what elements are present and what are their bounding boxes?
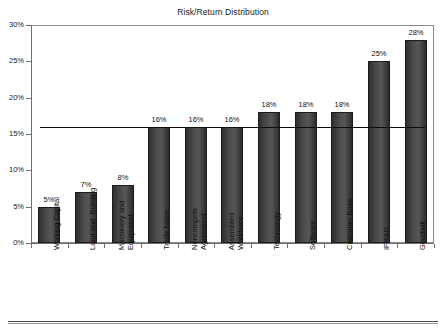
bar-value-label: 16% (214, 115, 250, 124)
y-axis-tick-label-wrap: 10% (0, 165, 24, 175)
x-axis-tick (31, 244, 32, 248)
x-axis-tick (287, 244, 288, 248)
y-axis-tick-label: 15% (0, 129, 24, 139)
x-axis-tick (434, 244, 435, 248)
bar-value-label: 16% (178, 115, 214, 124)
y-axis-tick (26, 207, 32, 208)
x-axis-category-label: Land and Building (89, 188, 98, 250)
bar-value-label: 18% (251, 100, 287, 109)
y-axis-tick-label: 10% (0, 165, 24, 175)
y-axis-tick-label: 0% (0, 238, 24, 248)
y-axis-tick (26, 61, 32, 62)
x-axis-category-label: IPR&D (383, 227, 392, 250)
x-axis-category-label: Goodwill (419, 221, 428, 250)
y-axis-tick-label-wrap: 30% (0, 20, 24, 30)
bar-value-label: 18% (324, 100, 360, 109)
y-axis-tick-label-wrap: 20% (0, 93, 24, 103)
y-axis-tick-label-wrap: 25% (0, 56, 24, 66)
x-axis-tick (214, 244, 215, 248)
x-axis-category-label: Trade Name (163, 209, 172, 250)
x-axis-category-label: Assembled Workforce (228, 213, 245, 250)
x-axis-category-label: Noncompete Agreement (191, 207, 208, 250)
x-axis-category-label: Technology (273, 212, 282, 250)
y-axis-tick-label-wrap: 5% (0, 202, 24, 212)
bar-value-label: 16% (141, 115, 177, 124)
x-axis-tick (68, 244, 69, 248)
x-axis-tick (251, 244, 252, 248)
x-axis-category-label: Working Capital (53, 197, 62, 250)
x-axis-tick (397, 244, 398, 248)
y-axis-tick-label-wrap: 15% (0, 129, 24, 139)
bar-value-label: 28% (398, 28, 434, 37)
bar-value-label: 7% (68, 180, 104, 189)
bar-value-label: 8% (105, 173, 141, 182)
x-axis-tick (141, 244, 142, 248)
x-axis-category-label: Machinery and Equipment (118, 201, 135, 250)
footer-divider-shadow (8, 323, 438, 324)
bar-value-label: 25% (361, 49, 397, 58)
reference-line (40, 127, 425, 128)
x-axis-category-label: Software (309, 220, 318, 250)
chart-page: Risk/Return Distribution 0%5%10%15%20%25… (0, 0, 446, 330)
y-axis-tick-label: 5% (0, 202, 24, 212)
chart-title: Risk/Return Distribution (0, 7, 446, 17)
y-axis-tick (26, 98, 32, 99)
x-axis-tick (361, 244, 362, 248)
bar (405, 40, 427, 243)
y-axis-tick-label-wrap: 0% (0, 238, 24, 248)
y-axis-tick-label: 25% (0, 56, 24, 66)
y-axis-tick (26, 170, 32, 171)
y-axis-tick (26, 25, 32, 26)
y-axis-tick-label: 20% (0, 93, 24, 103)
y-axis-tick-label: 30% (0, 20, 24, 30)
bar-value-label: 18% (288, 100, 324, 109)
y-axis-tick (26, 134, 32, 135)
x-axis-tick (178, 244, 179, 248)
x-axis-tick (104, 244, 105, 248)
bar-value-label: 5% (31, 195, 67, 204)
bar (368, 61, 390, 243)
footer-divider (8, 321, 438, 322)
x-axis-tick (324, 244, 325, 248)
x-axis-category-label: Customer Base (346, 198, 355, 250)
